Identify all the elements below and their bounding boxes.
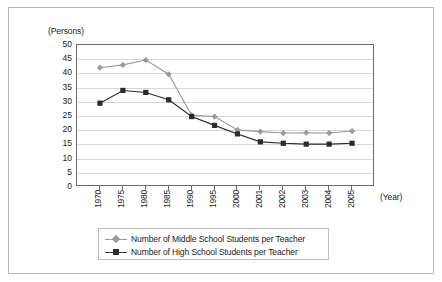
x-tick-label: 1980 — [140, 190, 149, 208]
x-tick-label: 2000 — [232, 190, 241, 208]
y-tick-label: 50 — [63, 40, 72, 49]
y-axis-tick-labels: 05101520253035404550 — [50, 44, 72, 186]
x-axis-tick-labels: 1970197519801985199019952000200120022003… — [76, 190, 374, 224]
x-tick-label: 2003 — [301, 190, 310, 208]
y-tick-label: 15 — [63, 139, 72, 148]
x-tick-label: 2005 — [347, 190, 356, 208]
data-point-marker — [303, 130, 309, 136]
x-tick-label: 1990 — [186, 190, 195, 208]
data-point-marker — [120, 62, 126, 68]
data-point-marker — [281, 141, 286, 146]
x-tick-label: 2004 — [324, 190, 333, 208]
x-tick-label: 1995 — [209, 190, 218, 208]
y-tick-label: 0 — [67, 182, 72, 191]
legend-item-middle-school: Number of Middle School Students per Tea… — [105, 233, 322, 245]
data-point-marker — [166, 97, 171, 102]
y-tick-label: 10 — [63, 153, 72, 162]
data-point-marker — [166, 71, 172, 77]
plot-area — [76, 44, 374, 186]
data-point-marker — [211, 113, 217, 119]
chart-legend: Number of Middle School Students per Tea… — [98, 228, 329, 260]
data-point-marker — [143, 57, 149, 63]
series-line — [100, 90, 352, 144]
data-point-marker — [304, 142, 309, 147]
y-tick-label: 25 — [63, 111, 72, 120]
data-point-marker — [326, 130, 332, 136]
y-tick-label: 5 — [67, 168, 72, 177]
series-line — [100, 60, 352, 133]
y-axis-unit-label: (Persons) — [48, 26, 84, 36]
data-point-marker — [120, 88, 125, 93]
data-point-marker — [257, 129, 263, 135]
data-point-marker — [143, 90, 148, 95]
legend-label-high-school: Number of High School Students per Teach… — [131, 247, 298, 257]
data-point-marker — [97, 101, 102, 106]
data-point-marker — [212, 123, 217, 128]
data-point-marker — [349, 141, 354, 146]
x-tick-label: 2001 — [255, 190, 264, 208]
y-tick-label: 40 — [63, 68, 72, 77]
y-tick-label: 20 — [63, 125, 72, 134]
y-tick-label: 35 — [63, 82, 72, 91]
legend-item-high-school: Number of High School Students per Teach… — [105, 246, 322, 258]
y-tick-label: 30 — [63, 97, 72, 106]
data-point-marker — [327, 142, 332, 147]
x-axis-unit-label: (Year) — [380, 192, 402, 202]
x-tick-label: 1970 — [94, 190, 103, 208]
square-marker-icon — [105, 247, 127, 257]
data-point-marker — [235, 131, 240, 136]
data-point-marker — [349, 128, 355, 134]
data-point-marker — [258, 139, 263, 144]
y-tick-label: 45 — [63, 54, 72, 63]
legend-label-middle-school: Number of Middle School Students per Tea… — [131, 234, 305, 244]
series-layer — [77, 45, 375, 187]
data-point-marker — [189, 114, 194, 119]
x-tick-label: 2002 — [278, 190, 287, 208]
x-tick-label: 1975 — [117, 190, 126, 208]
x-tick-label: 1985 — [163, 190, 172, 208]
chart-figure: (Persons) 05101520253035404550 197019751… — [0, 0, 442, 282]
diamond-marker-icon — [105, 234, 127, 244]
data-point-marker — [280, 130, 286, 136]
data-point-marker — [97, 65, 103, 71]
